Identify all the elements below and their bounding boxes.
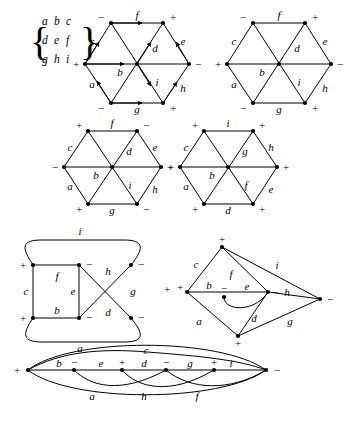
lens7-sign-v3: −	[163, 356, 169, 368]
lens7-label-bottom-arc-3: f	[195, 390, 200, 402]
hex2-node-tr	[303, 21, 307, 25]
matrix-cell-1-1: e	[54, 34, 59, 46]
lens7-label-line-1: b	[56, 357, 62, 369]
matrix-cell-2-1: h	[54, 53, 60, 65]
kite6-label-lower-mid: d	[251, 312, 257, 324]
diagram-hex-2: − + − + − + f c e a h g b d i	[215, 9, 343, 115]
lens7-sign-right: −	[274, 364, 280, 376]
ladder5-sign-far-right: +	[164, 283, 170, 295]
hex1-sign-left: +	[73, 58, 79, 70]
hex1-node-bl	[109, 101, 113, 105]
hex1-node-br	[161, 101, 165, 105]
hex3-label-lower-left: a	[67, 180, 73, 192]
kite6-label-upper-right: i	[275, 259, 278, 271]
lens7-node-v4	[212, 368, 216, 372]
lens7-arc-h	[122, 370, 214, 387]
lens7-arc-f	[166, 370, 266, 386]
ladder5-node-br	[129, 316, 133, 320]
hex1-label-bottom: g	[134, 103, 140, 115]
hex1-label-upper-right: e	[181, 35, 186, 47]
hex3-node-l	[62, 165, 66, 169]
hex4-node-tr	[251, 129, 255, 133]
matrix-cell-2-2: i	[66, 53, 69, 65]
lens7-node-left	[26, 368, 30, 372]
lens7-node-right	[264, 368, 268, 372]
kite6-label-mid-left: b	[206, 279, 212, 291]
kite6-label-lower-right: g	[287, 315, 293, 327]
hex3-label-upper-right: e	[153, 141, 158, 153]
hex3-sign-top-right: −	[143, 119, 149, 131]
hex4-label-upper-left: c	[184, 141, 189, 153]
hex2-node-bl	[251, 101, 255, 105]
lens7-bottom-outer	[28, 370, 266, 395]
lens7-label-line-5: i	[229, 357, 232, 369]
lens7-label-bottom-arc-1: a	[89, 390, 95, 402]
kite6-sign-center-right: −	[272, 286, 278, 298]
hex4-node-center	[226, 165, 230, 169]
kite6-edge-a	[187, 292, 238, 336]
lens7-label-top-arc: c	[144, 344, 149, 356]
ladder5-sign-top-left: +	[20, 259, 26, 271]
hex1-arrow-diag-upper	[137, 42, 151, 64]
hex3-label-diag-upper: d	[126, 145, 132, 157]
math-figure-svg: { } a b c d e f g h i − +	[0, 0, 352, 426]
ladder5-sign-bottom-left: +	[20, 312, 26, 324]
ladder5-label-cross-lower: d	[105, 306, 111, 318]
lens7-sign-v2: +	[119, 356, 125, 368]
hex1-label-diag-upper: d	[152, 42, 158, 54]
hex4-sign-right: +	[283, 161, 289, 173]
hex3-label-middle: b	[93, 169, 99, 181]
hex3-label-lower-right: h	[152, 183, 158, 195]
hex1-sign-bottom-left: −	[98, 102, 104, 114]
kite6-sign-center-left: −	[221, 282, 227, 294]
matrix-cell-0-2: c	[66, 15, 71, 27]
hex4-sign-top-left: +	[192, 119, 198, 131]
hex3-sign-bottom-left: +	[76, 203, 82, 215]
kite6-node-left	[185, 290, 189, 294]
hex1-node-tr	[161, 21, 165, 25]
hex1-node-r	[187, 62, 191, 66]
ladder5-label-bottom-horizontal: b	[54, 304, 60, 316]
kite6-label-f: f	[229, 268, 234, 280]
hex3-node-center	[110, 165, 114, 169]
lens7-node-v2	[120, 368, 124, 372]
lens7-label-line-4: g	[187, 357, 193, 369]
hex2-label-middle: b	[259, 66, 265, 78]
kite6-node-center-left	[222, 295, 226, 299]
hex4-label-diag-lower: f	[244, 179, 249, 191]
hex2-label-upper-right: e	[323, 35, 328, 47]
hex2-sign-right: −	[337, 58, 343, 70]
matrix-cell-1-0: d	[42, 34, 48, 46]
lens7-node-v3	[164, 368, 168, 372]
hex1-sign-top-right: +	[170, 11, 176, 23]
kite6-loop-e	[224, 292, 268, 308]
lens7-label-line-3: d	[141, 357, 147, 369]
ladder5-sign-bottom-right: −	[138, 311, 144, 323]
ladder5-sign-top-right: −	[138, 258, 144, 270]
hex1-arrow-lower-right	[163, 82, 177, 103]
hex4-label-diag-upper: g	[242, 145, 248, 157]
hex3-label-bottom: g	[109, 204, 115, 216]
kite6-edge-c	[187, 247, 222, 292]
lens7-sign-left: +	[14, 364, 20, 376]
hex4-node-tl	[202, 129, 206, 133]
hex2-label-diag-upper: d	[294, 42, 300, 54]
ladder5-bottom-arc-a	[26, 318, 141, 342]
lens7-label-line-2: e	[99, 357, 104, 369]
ladder5-label-mid-vertical: e	[71, 285, 76, 297]
hex1-node-center	[135, 62, 139, 66]
hex1-arrow-diag-lower	[137, 64, 151, 86]
hex3-label-diag-lower: i	[128, 179, 131, 191]
kite6-node-right	[318, 297, 322, 301]
hex2-sign-top-left: −	[240, 11, 246, 23]
hex2-node-tl	[251, 21, 255, 25]
ladder5-sign-bottom-mid: −	[86, 311, 92, 323]
hex1-label-top: f	[135, 9, 140, 21]
ladder5-node-bm	[77, 316, 81, 320]
hex4-node-bl	[202, 202, 206, 206]
hex4-label-middle: b	[209, 169, 215, 181]
ladder5-label-top-arc: i	[78, 225, 81, 237]
lens7-sign-v1: −	[71, 356, 77, 368]
kite6-node-center-right	[266, 290, 270, 294]
ladder5-node-tm	[77, 263, 81, 267]
